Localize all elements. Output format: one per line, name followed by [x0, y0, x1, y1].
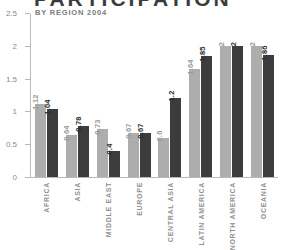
category-label-text: ASIA [74, 182, 81, 202]
bar-group: 0.730.4 [93, 14, 124, 177]
category-label-text: AFRICA [43, 182, 50, 213]
y-tick: 1 [25, 111, 30, 112]
bar-column: 2 [251, 14, 262, 177]
bar: 0.67 [140, 133, 151, 177]
category-label-text: NORTH AMERICA [228, 182, 235, 250]
category-label: NORTH AMERICA [216, 182, 247, 246]
bar: 2 [251, 46, 262, 177]
bar-column: 0.64 [66, 14, 77, 177]
bar-value-label: 0.64 [63, 125, 71, 140]
bar: 1.2 [170, 98, 181, 177]
bar-column: 1.04 [47, 14, 58, 177]
bar-column: 1.85 [201, 14, 212, 177]
category-label: MIDDLE EAST [93, 182, 124, 246]
bar: 0.78 [78, 126, 89, 177]
category-label: CENTRAL ASIA [155, 182, 186, 246]
bar-value-label: 1.2 [168, 91, 176, 102]
bar-column: 0.78 [78, 14, 89, 177]
category-label: AFRICA [31, 182, 62, 246]
category-label-text: MIDDLE EAST [105, 182, 112, 237]
category-label-text: LATIN AMERICA [197, 182, 204, 246]
bar-column: 2 [232, 14, 243, 177]
bar-column: 0.67 [140, 14, 151, 177]
bar-value-label: 1.85 [199, 46, 207, 61]
bar: 0.67 [128, 133, 139, 177]
bar-value-label: 1.04 [44, 99, 52, 114]
bar-group: 0.670.67 [124, 14, 155, 177]
category-label: EUROPE [124, 182, 155, 246]
bar-column: 1.2 [170, 14, 181, 177]
bar-value-label: 0.6 [156, 130, 164, 141]
category-label-text: CENTRAL ASIA [166, 182, 173, 242]
y-tick: 0.5 [25, 144, 30, 145]
bar-groups: 1.121.040.640.780.730.40.670.670.61.21.6… [31, 14, 278, 177]
y-tick-label: 2 [13, 41, 17, 50]
bar: 0.6 [158, 138, 169, 177]
bar-column: 1.86 [263, 14, 274, 177]
bar-value-label: 0.67 [137, 123, 145, 138]
y-tick: 0 [25, 177, 30, 178]
bar-value-label: 0.73 [94, 119, 102, 134]
x-axis-line [30, 177, 278, 178]
bar-value-label: 0.67 [125, 123, 133, 138]
bar-value-label: 2 [218, 42, 226, 46]
bar: 2 [232, 46, 243, 177]
bar-value-label: 0.4 [106, 143, 114, 154]
bar-column: 0.67 [128, 14, 139, 177]
y-tick: 1.5 [25, 79, 30, 80]
bar-group: 21.86 [247, 14, 278, 177]
plot-area: 00.511.522.5 1.121.040.640.780.730.40.67… [30, 14, 278, 178]
bar-value-label: 1.86 [261, 45, 269, 60]
bar-column: 1.64 [189, 14, 200, 177]
bar: 1.85 [201, 56, 212, 177]
bar-value-label: 2 [249, 42, 257, 46]
bar: 1.64 [189, 69, 200, 177]
y-tick: 2 [25, 46, 30, 47]
category-label: OCEANIA [247, 182, 278, 246]
category-label: LATIN AMERICA [185, 182, 216, 246]
bar: 0.64 [66, 135, 77, 177]
x-axis-categories: AFRICAASIAMIDDLE EASTEUROPECENTRAL ASIAL… [31, 182, 278, 246]
bar-group: 0.640.78 [62, 14, 93, 177]
bar: 0.4 [109, 151, 120, 177]
bar-group: 0.61.2 [155, 14, 186, 177]
bar-column: 2 [220, 14, 231, 177]
bar: 2 [220, 46, 231, 177]
bar-group: 1.121.04 [31, 14, 62, 177]
bar-value-label: 1.12 [32, 94, 40, 109]
y-tick: 2.5 [25, 13, 30, 14]
category-label: ASIA [62, 182, 93, 246]
y-tick-label: 0.5 [6, 140, 17, 149]
bar: 1.86 [263, 55, 274, 177]
bar-value-label: 0.78 [75, 116, 83, 131]
bar-value-label: 2 [230, 42, 238, 46]
bar-column: 1.12 [35, 14, 46, 177]
bar-value-label: 1.64 [187, 60, 195, 75]
bar-group: 22 [216, 14, 247, 177]
bar-column: 0.4 [109, 14, 120, 177]
bar: 1.04 [47, 109, 58, 177]
y-tick-label: 1 [13, 107, 17, 116]
bar-group: 1.641.85 [185, 14, 216, 177]
y-tick-label: 1.5 [6, 74, 17, 83]
category-label-text: EUROPE [136, 182, 143, 216]
category-label-text: OCEANIA [259, 182, 266, 219]
y-tick-label: 2.5 [6, 9, 17, 18]
y-tick-label: 0 [13, 173, 17, 182]
